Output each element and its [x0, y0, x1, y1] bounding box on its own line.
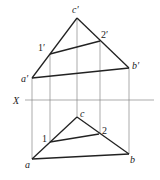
label-1: 1: [42, 133, 47, 144]
label-2: 2: [102, 125, 107, 136]
x-axis-label: X: [12, 95, 20, 106]
projection-diagram: X c′ 1′ 2′ a′ b′ c 1 2 a b: [0, 0, 160, 180]
label-a: a: [25, 159, 30, 170]
label-b-prime: b′: [132, 60, 140, 71]
label-a-prime: a′: [21, 73, 29, 84]
label-2-prime: 2′: [101, 29, 108, 40]
label-b: b: [130, 154, 135, 165]
edge-c-prime-b-prime: [77, 18, 129, 68]
edge-a-b: [32, 154, 129, 159]
label-1-prime: 1′: [38, 42, 45, 53]
edge-a-c: [32, 117, 77, 159]
edge-a-prime-b-prime: [32, 68, 129, 78]
label-c: c: [80, 108, 85, 119]
label-c-prime: c′: [72, 4, 79, 15]
